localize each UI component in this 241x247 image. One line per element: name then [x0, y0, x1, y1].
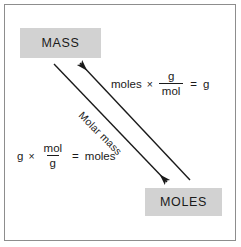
equation-grams-to-moles-term1: g	[16, 150, 24, 162]
fraction-numerator: mol	[41, 142, 66, 155]
equation-moles-to-grams-result: g	[202, 78, 210, 90]
equals-sign: =	[67, 150, 84, 162]
node-mass[interactable]: MASS	[20, 28, 101, 58]
equation-moles-to-grams-term1: moles	[110, 78, 143, 90]
equation-grams-to-moles: g × mol g = moles	[16, 142, 116, 170]
equation-moles-to-grams: moles × g mol = g	[110, 70, 210, 98]
equation-moles-to-grams-fraction: g mol	[159, 70, 184, 98]
fraction-denominator: g	[47, 155, 59, 169]
node-mass-label: MASS	[42, 36, 80, 50]
diagram-canvas: MASS MOLES Molar mass moles × g mol = g …	[0, 0, 241, 247]
equals-sign: =	[185, 78, 202, 90]
fraction-denominator: mol	[159, 83, 184, 97]
fraction-numerator: g	[165, 70, 177, 83]
equation-grams-to-moles-result: moles	[84, 150, 117, 162]
node-moles-label: MOLES	[160, 195, 207, 209]
multiply-icon: ×	[24, 150, 38, 162]
multiply-icon: ×	[143, 78, 157, 90]
equation-grams-to-moles-fraction: mol g	[41, 142, 66, 170]
node-moles[interactable]: MOLES	[145, 188, 222, 216]
